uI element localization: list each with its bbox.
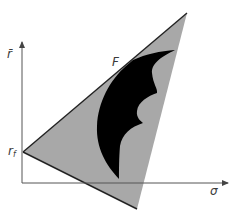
x-axis-label: σ [210,184,218,198]
diagram-canvas: r̄ σ F rf [0,0,242,217]
risk-free-rate-subscript: f [13,150,17,159]
tangency-point-label: F [112,55,120,69]
y-axis-label: r̄ [7,47,13,61]
risk-free-rate-label: rf [8,144,17,159]
